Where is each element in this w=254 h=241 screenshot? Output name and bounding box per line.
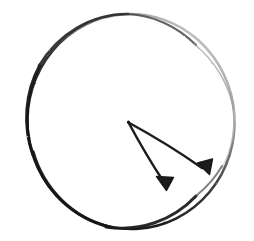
sketch-canvas: Hand-drawn circle with two arrows from a… <box>0 0 254 241</box>
paper-background <box>0 0 254 241</box>
arrow-common-vertex <box>127 120 130 123</box>
sketch-figure <box>0 0 254 241</box>
